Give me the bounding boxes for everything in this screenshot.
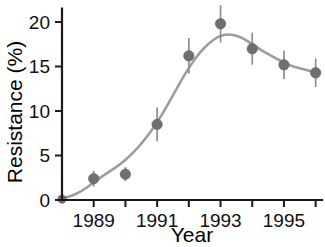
data-point-1994	[247, 44, 257, 54]
data-point-1993	[215, 19, 225, 29]
resistance-vs-year-chart: 05101520 1989199119931995 Resistance (%)…	[0, 0, 325, 247]
x-tick-label-1989: 1989	[73, 210, 115, 231]
y-tick-label-20: 20	[29, 12, 50, 33]
data-point-1991	[152, 119, 162, 129]
error-bars-group	[62, 5, 316, 202]
data-point-1989	[89, 173, 99, 183]
y-tick-label-5: 5	[39, 145, 50, 166]
y-tick-labels-group: 05101520	[29, 12, 50, 211]
chart-figure: 05101520 1989199119931995 Resistance (%)…	[0, 0, 325, 247]
x-tick-label-1995: 1995	[263, 210, 305, 231]
y-tick-label-0: 0	[39, 190, 50, 211]
y-tick-label-10: 10	[29, 101, 50, 122]
data-point-1990	[120, 169, 130, 179]
y-tick-label-15: 15	[29, 56, 50, 77]
y-axis-title: Resistance (%)	[3, 41, 26, 183]
x-axis-title: Year	[171, 223, 213, 246]
data-point-1992	[184, 51, 194, 61]
axes-group	[62, 9, 322, 200]
data-point-1995	[279, 60, 289, 70]
data-point-1996	[310, 68, 320, 78]
